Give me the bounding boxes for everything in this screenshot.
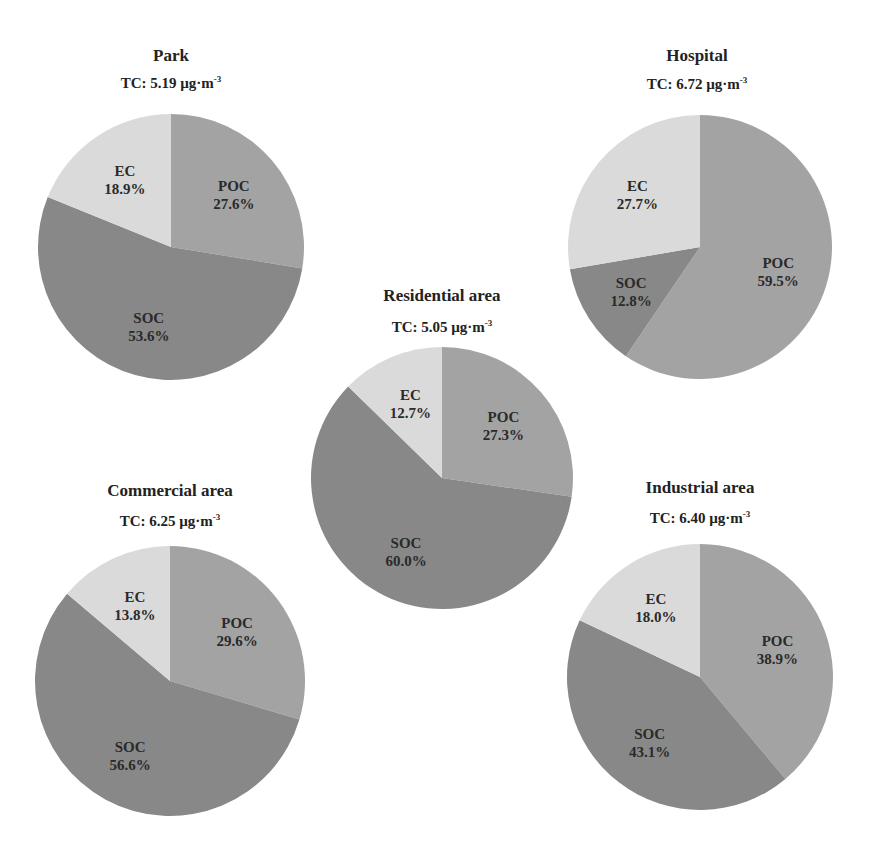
slice-label-poc: POC xyxy=(218,178,250,194)
slice-value-poc: 27.6% xyxy=(213,196,254,212)
slice-label-poc: POC xyxy=(221,615,253,631)
slice-label-ec: EC xyxy=(627,178,648,194)
tc-label-hospital: TC: 6.72 µg·m-3 xyxy=(647,75,748,93)
slice-value-poc: 38.9% xyxy=(757,651,798,667)
pie-commercial-area: POC29.6%SOC56.6%EC13.8% xyxy=(35,546,305,816)
chart-title-residential: Residential area xyxy=(383,286,500,306)
pie-charts-canvas: POC27.6%SOC53.6%EC18.9%POC59.5%SOC12.8%E… xyxy=(0,0,870,856)
slice-label-soc: SOC xyxy=(133,310,164,326)
slice-value-soc: 53.6% xyxy=(128,328,169,344)
slice-label-ec: EC xyxy=(400,387,421,403)
tc-label-industrial: TC: 6.40 µg·m-3 xyxy=(650,509,751,527)
slice-value-poc: 59.5% xyxy=(758,273,799,289)
chart-title-park: Park xyxy=(153,46,189,66)
slice-value-ec: 12.7% xyxy=(390,405,431,421)
slice-label-soc: SOC xyxy=(115,739,146,755)
slice-label-poc: POC xyxy=(762,633,794,649)
slice-label-poc: POC xyxy=(762,255,794,271)
chart-title-commercial: Commercial area xyxy=(107,481,232,501)
slice-value-poc: 27.3% xyxy=(483,427,524,443)
chart-title-industrial: Industrial area xyxy=(646,478,755,498)
slice-label-poc: POC xyxy=(488,409,520,425)
slice-label-soc: SOC xyxy=(391,535,422,551)
slice-value-ec: 18.9% xyxy=(104,181,145,197)
slice-label-soc: SOC xyxy=(616,275,647,291)
slice-value-soc: 56.6% xyxy=(110,757,151,773)
tc-label-commercial: TC: 6.25 µg·m-3 xyxy=(120,512,221,530)
slice-value-soc: 60.0% xyxy=(385,553,426,569)
slice-value-soc: 12.8% xyxy=(611,293,652,309)
tc-label-residential: TC: 5.05 µg·m-3 xyxy=(392,318,493,336)
pie-hospital: POC59.5%SOC12.8%EC27.7% xyxy=(568,115,832,379)
slice-label-soc: SOC xyxy=(634,726,665,742)
chart-title-hospital: Hospital xyxy=(666,46,727,66)
slice-value-ec: 27.7% xyxy=(617,196,658,212)
slice-value-soc: 43.1% xyxy=(629,744,670,760)
pie-park: POC27.6%SOC53.6%EC18.9% xyxy=(38,114,304,380)
slice-value-poc: 29.6% xyxy=(216,633,257,649)
slice-value-ec: 18.0% xyxy=(635,609,676,625)
slice-label-ec: EC xyxy=(645,591,666,607)
slice-value-ec: 13.8% xyxy=(114,607,155,623)
tc-label-park: TC: 5.19 µg·m-3 xyxy=(121,74,222,92)
slice-label-ec: EC xyxy=(124,589,145,605)
pie-residential-area: POC27.3%SOC60.0%EC12.7% xyxy=(311,347,573,609)
slice-label-ec: EC xyxy=(114,163,135,179)
pie-industrial-area: POC38.9%SOC43.1%EC18.0% xyxy=(567,544,833,810)
